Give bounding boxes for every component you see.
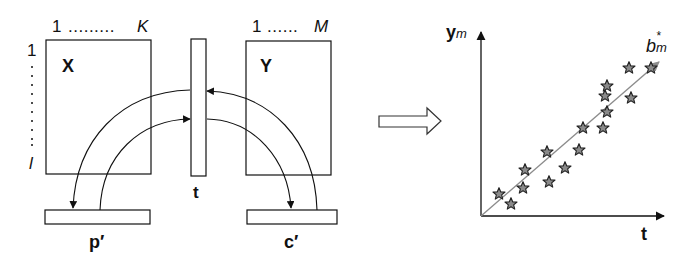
arc-t-to-c	[207, 119, 291, 208]
matrix-y-label: Y	[260, 57, 272, 75]
y-axis-label: ym	[446, 23, 467, 41]
block-right-arrow-icon	[379, 108, 441, 134]
star-icon	[573, 144, 585, 155]
y-axis-label-sub: m	[456, 26, 467, 41]
x-col-end-label: K	[137, 18, 148, 35]
star-icon	[559, 162, 571, 173]
y-axis-label-main: y	[446, 22, 456, 42]
arc-c-to-t	[207, 91, 317, 210]
x-col-dots: .........	[68, 18, 115, 35]
star-icon	[505, 198, 517, 209]
x-col-start-label: 1	[52, 18, 61, 35]
x-weights-p-bar	[45, 210, 150, 224]
x-row-end-label: l	[29, 155, 33, 172]
y-col-dots: ......	[267, 18, 298, 35]
x-axis-label: t	[641, 225, 647, 243]
diagram-canvas	[0, 0, 695, 262]
star-icon	[601, 106, 613, 117]
star-icon	[601, 80, 613, 91]
regression-line-label: b*m	[646, 34, 668, 55]
score-vector-t-bar	[191, 39, 206, 176]
star-icon	[623, 62, 635, 73]
star-icon	[625, 92, 637, 103]
y-weights-label: c′	[284, 233, 298, 251]
plot-axes	[481, 32, 664, 216]
arc-p-to-t	[100, 119, 190, 210]
star-icon	[645, 62, 657, 73]
star-icon	[543, 176, 555, 187]
x-row-start-label: 1	[27, 42, 36, 59]
x-weights-label: p′	[89, 233, 104, 251]
matrix-x-label: X	[62, 57, 74, 75]
y-col-end-label: M	[314, 18, 328, 35]
score-vector-label: t	[193, 184, 199, 201]
star-icon	[597, 122, 609, 133]
line-label-main: b	[646, 36, 656, 56]
line-label-sub: m	[656, 41, 667, 54]
star-icon	[599, 90, 611, 101]
row-dots	[31, 66, 33, 146]
arc-t-to-p	[73, 90, 190, 208]
matrix-y-box	[246, 41, 331, 175]
y-weights-c-bar	[247, 210, 337, 224]
y-col-start-label: 1	[252, 18, 261, 35]
regression-line-bm	[481, 62, 659, 216]
